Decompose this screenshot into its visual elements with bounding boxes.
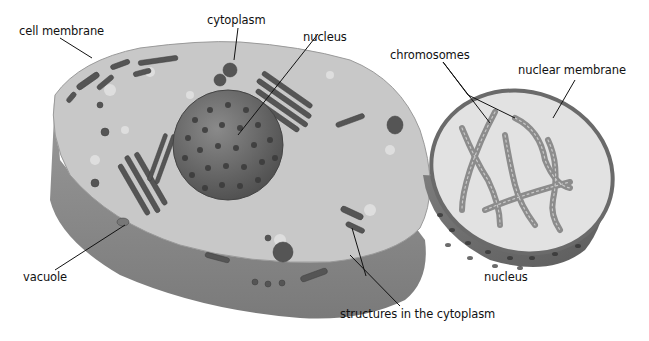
nuclear-membrane-shape	[408, 65, 636, 278]
cell-diagram	[0, 0, 649, 341]
label-nucleus-detail: nucleus	[484, 270, 528, 284]
label-nuclear-membrane: nuclear membrane	[518, 63, 626, 77]
label-cell-membrane: cell membrane	[19, 24, 104, 38]
label-cytoplasm: cytoplasm	[207, 13, 266, 27]
cell-nucleus	[173, 90, 283, 200]
nucleus-detail	[408, 65, 636, 278]
label-chromosomes: chromosomes	[390, 48, 470, 62]
label-structures-in-cytoplasm: structures in the cytoplasm	[340, 307, 495, 321]
vacuole-shape	[117, 218, 129, 226]
label-nucleus-cell: nucleus	[303, 30, 347, 44]
label-vacuole: vacuole	[23, 270, 67, 284]
cell-body	[50, 42, 430, 319]
